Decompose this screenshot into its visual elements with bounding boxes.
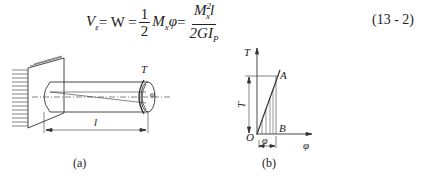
y-axis-label: T	[244, 46, 251, 58]
torque-label: T	[141, 63, 148, 75]
figures: T φ l T A B O φ φ T	[0, 0, 430, 181]
angle-label: φ	[150, 89, 155, 99]
caption-b: (b)	[262, 156, 276, 171]
wall-hatching	[12, 56, 62, 126]
origin-label: O	[246, 131, 254, 143]
point-a-label: A	[279, 69, 287, 81]
load-line	[257, 70, 280, 134]
caption-a: (a)	[73, 156, 86, 171]
x-axis-label: φ	[303, 139, 309, 151]
figure-a-shaft	[12, 56, 172, 133]
phi-dimension-label: φ	[262, 135, 268, 146]
point-b-label: B	[279, 122, 286, 134]
t-dimension-label: T	[235, 101, 247, 108]
length-label: l	[94, 116, 97, 128]
